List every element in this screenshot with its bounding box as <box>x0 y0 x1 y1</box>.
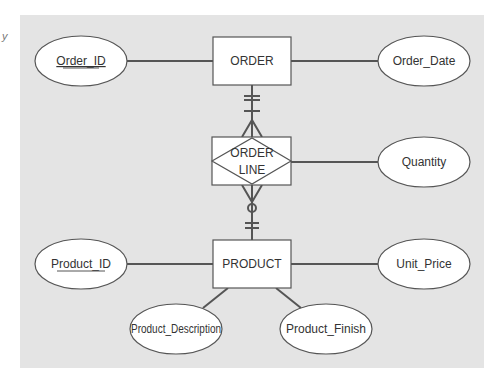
entity-order-label: ORDER <box>230 54 274 68</box>
attribute-product-id-label: Product_ID <box>51 257 111 271</box>
attribute-product-finish[interactable]: Product_Finish <box>280 304 372 354</box>
entity-product[interactable]: PRODUCT <box>213 240 291 288</box>
er-diagram: ORDER ORDER LINE PRODUCT Order_ID Order_… <box>0 0 503 382</box>
attribute-product-description[interactable]: Product_Description <box>130 304 222 354</box>
relationship-product-orderline <box>242 185 262 240</box>
attribute-quantity-label: Quantity <box>402 155 447 169</box>
entity-order-line-label-1: ORDER <box>230 146 274 160</box>
attribute-product-id[interactable]: Product_ID <box>35 239 127 289</box>
attribute-order-date-label: Order_Date <box>393 54 456 68</box>
attribute-quantity[interactable]: Quantity <box>378 137 470 187</box>
connector-product-finish <box>276 288 301 308</box>
entity-order[interactable]: ORDER <box>213 37 291 85</box>
attribute-order-id[interactable]: Order_ID <box>35 36 127 86</box>
entity-product-label: PRODUCT <box>222 257 282 271</box>
attribute-order-id-label: Order_ID <box>56 54 106 68</box>
attribute-product-description-label: Product_Description <box>131 322 221 336</box>
attribute-unit-price-label: Unit_Price <box>396 257 452 271</box>
entity-order-line[interactable]: ORDER LINE <box>212 137 291 185</box>
attribute-product-finish-label: Product_Finish <box>286 322 366 336</box>
attribute-unit-price[interactable]: Unit_Price <box>378 239 470 289</box>
relationship-order-orderline <box>242 85 262 137</box>
connector-product-description <box>203 288 228 308</box>
entity-order-line-label-2: LINE <box>239 163 266 177</box>
attribute-order-date[interactable]: Order_Date <box>378 36 470 86</box>
